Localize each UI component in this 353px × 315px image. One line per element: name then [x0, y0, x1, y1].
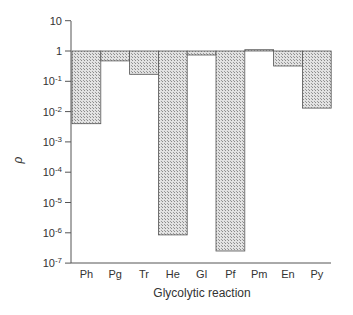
x-tick-label: Gl [196, 268, 207, 280]
bar-pf [216, 51, 245, 251]
x-tick-label: Py [310, 268, 323, 280]
x-axis-label: Glycolytic reaction [153, 286, 250, 300]
x-tick-label: Tr [139, 268, 149, 280]
bar-he [158, 51, 187, 235]
y-ticks: 10110-110-210-310-410-510-610-7 [43, 15, 71, 269]
x-tick-labels: PhPgTrHeGlPfPmEnPy [80, 268, 324, 280]
bar-chart: 10110-110-210-310-410-510-610-7 PhPgTrHe… [0, 0, 353, 315]
x-tick-label: En [281, 268, 294, 280]
bar-tr [130, 51, 159, 74]
y-tick-label: 10-5 [43, 196, 63, 209]
y-tick-label: 10 [50, 15, 62, 27]
x-tick-label: Pg [108, 268, 121, 280]
y-tick-label: 10-6 [43, 226, 63, 239]
x-tick-label: Pm [251, 268, 268, 280]
y-tick-label: 10-3 [43, 135, 63, 148]
y-tick-label: 10-1 [43, 74, 63, 87]
x-tick-label: Pf [225, 268, 236, 280]
y-tick-label: 10-2 [43, 105, 63, 118]
y-tick-label: 1 [56, 45, 62, 57]
bar-gl [187, 51, 216, 55]
bar-py [302, 51, 331, 108]
x-tick-label: He [166, 268, 180, 280]
bar-pm [245, 50, 274, 51]
y-tick-label: 10-7 [43, 256, 63, 269]
bar-pg [101, 51, 130, 61]
bars-group [72, 50, 331, 251]
x-tick-label: Ph [80, 268, 93, 280]
bar-ph [72, 51, 101, 124]
bar-en [274, 51, 303, 66]
y-tick-label: 10-4 [43, 165, 63, 178]
y-axis-label: ρ [11, 156, 25, 164]
